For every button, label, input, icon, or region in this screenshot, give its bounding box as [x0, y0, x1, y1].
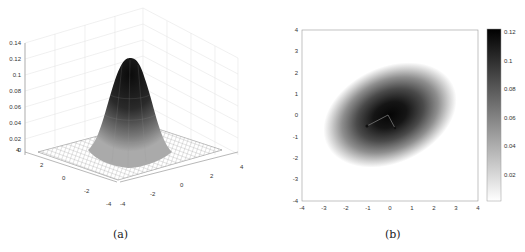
svg-text:0.14: 0.14	[9, 40, 21, 46]
svg-text:2: 2	[432, 205, 436, 211]
svg-text:3: 3	[454, 205, 458, 211]
svg-text:0.06: 0.06	[9, 104, 21, 110]
svg-text:0.1: 0.1	[504, 58, 513, 64]
caption-b: (b)	[385, 228, 401, 241]
svg-text:-1: -1	[365, 205, 371, 211]
svg-text:0: 0	[295, 112, 299, 118]
svg-text:0.02: 0.02	[9, 136, 21, 142]
z-axis-ticks: 0.14 0.12 0.1 0.08 0.06 0.04 0.02 0	[9, 40, 21, 153]
svg-text:1: 1	[295, 91, 299, 97]
svg-text:3: 3	[295, 48, 299, 54]
svg-text:-3: -3	[293, 176, 299, 182]
panel-b-heatmap: 4 3 2 1 0 -1 -2 -3 -4 -4 -3 -2 -1 0 1 2 …	[262, 0, 525, 252]
svg-text:4: 4	[476, 205, 480, 211]
svg-text:0.1: 0.1	[13, 72, 22, 78]
svg-text:-2: -2	[343, 205, 349, 211]
svg-text:-2: -2	[293, 155, 299, 161]
svg-text:0: 0	[388, 205, 392, 211]
svg-text:0: 0	[180, 182, 184, 188]
svg-text:-3: -3	[321, 205, 327, 211]
svg-text:1: 1	[410, 205, 414, 211]
svg-text:0.12: 0.12	[504, 29, 516, 35]
heatmap-y-ticks: 4 3 2 1 0 -1 -2 -3 -4	[293, 27, 299, 204]
svg-text:-2: -2	[150, 191, 156, 197]
svg-text:-2: -2	[84, 188, 90, 194]
svg-text:0.04: 0.04	[504, 143, 516, 149]
svg-text:2: 2	[40, 162, 44, 168]
heatmap-svg: 4 3 2 1 0 -1 -2 -3 -4 -4 -3 -2 -1 0 1 2 …	[262, 0, 525, 252]
heatmap-x-ticks: -4 -3 -2 -1 0 1 2 3 4	[299, 205, 480, 211]
svg-text:4: 4	[240, 164, 244, 170]
svg-text:2: 2	[295, 70, 299, 76]
svg-text:2: 2	[210, 173, 214, 179]
svg-text:0.04: 0.04	[9, 120, 21, 126]
svg-text:0.06: 0.06	[504, 115, 516, 121]
svg-text:-4: -4	[293, 198, 299, 204]
svg-text:0: 0	[62, 175, 66, 181]
panel-a-surface-plot: 0.14 0.12 0.1 0.08 0.06 0.04 0.02 0	[0, 0, 262, 252]
svg-text:-1: -1	[293, 134, 299, 140]
svg-text:0.08: 0.08	[9, 88, 21, 94]
svg-text:-4: -4	[299, 205, 305, 211]
colorbar	[487, 29, 501, 201]
svg-text:4: 4	[295, 27, 299, 33]
svg-text:0.12: 0.12	[9, 56, 21, 62]
caption-a: (a)	[113, 228, 128, 241]
colorbar-ticks: 0.12 0.1 0.08 0.06 0.04 0.02	[504, 29, 516, 178]
svg-text:0.08: 0.08	[504, 86, 516, 92]
svg-text:0.02: 0.02	[504, 172, 516, 178]
gaussian-peak	[88, 58, 172, 168]
surface-plot-svg: 0.14 0.12 0.1 0.08 0.06 0.04 0.02 0	[0, 0, 262, 252]
svg-text:-4: -4	[120, 201, 126, 207]
svg-text:-4: -4	[106, 201, 112, 207]
